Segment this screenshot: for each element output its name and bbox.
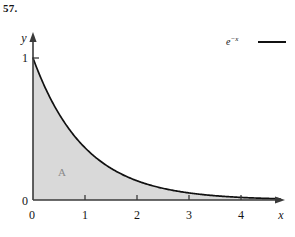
- legend: e−x: [226, 35, 286, 47]
- y-tick-label-0: 0: [22, 194, 28, 208]
- plot-svg: 0 1 2 3 4 0 1 x y A e−x: [0, 0, 295, 237]
- legend-label: e−x: [226, 35, 239, 47]
- x-tick-label-2: 2: [134, 208, 140, 222]
- figure-container: 57. 0 1 2 3 4 0 1: [0, 0, 295, 237]
- x-tick-label-3: 3: [186, 208, 192, 222]
- x-tick-label-4: 4: [238, 208, 244, 222]
- x-tick-label-0: 0: [29, 208, 35, 222]
- y-axis-arrowhead: [29, 32, 36, 42]
- x-axis-arrowhead: [275, 196, 285, 203]
- x-axis-label: x: [277, 208, 284, 222]
- x-tick-label-1: 1: [82, 208, 88, 222]
- region-label-a: A: [58, 166, 66, 178]
- y-axis-label: y: [20, 31, 27, 45]
- legend-exponent: −x: [230, 35, 239, 43]
- y-tick-label-1: 1: [22, 51, 28, 65]
